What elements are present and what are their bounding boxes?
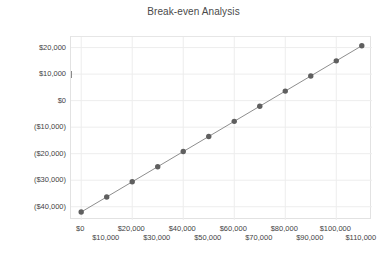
x-axis-tick-label: $80,000 (271, 224, 298, 233)
x-axis-tick-label: $50,000 (194, 233, 221, 242)
x-axis-tick-label: $30,000 (143, 233, 170, 242)
x-axis-tick-label: $70,000 (245, 233, 272, 242)
x-axis-tick-label: $10,000 (92, 233, 119, 242)
x-axis-tick-label: $100,000 (320, 224, 351, 233)
chart-container: Break-even Analysis $20,000$10,000$0($10… (0, 0, 387, 256)
x-axis-labels: $0$10,000$20,000$30,000$40,000$50,000$60… (0, 0, 387, 256)
x-axis-tick-label: $40,000 (169, 224, 196, 233)
x-axis-tick-label: $0 (76, 224, 84, 233)
x-axis-tick-label: $20,000 (118, 224, 145, 233)
x-axis-tick-label: $60,000 (220, 224, 247, 233)
x-axis-tick-label: $90,000 (296, 233, 323, 242)
x-axis-tick-label: $110,000 (345, 233, 376, 242)
